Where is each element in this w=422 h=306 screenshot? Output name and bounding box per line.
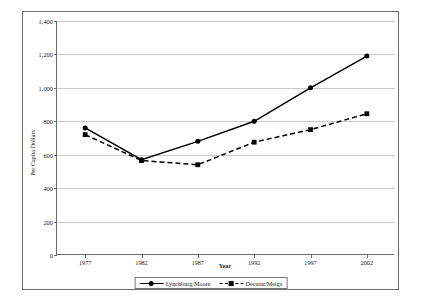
- legend-label-0: Lynchburg/Moore: [166, 280, 211, 287]
- y-tick-label: 800: [43, 118, 53, 125]
- x-tick-mark: [85, 255, 86, 258]
- legend-swatch-icon-0: [140, 279, 164, 287]
- y-tick-label: 1,000: [39, 84, 53, 91]
- data-point-marker-1: [364, 111, 369, 116]
- y-tick-label: 600: [43, 151, 53, 158]
- data-point-marker-0: [195, 139, 200, 144]
- y-tick-label: 400: [43, 185, 53, 192]
- y-tick-mark: [54, 255, 57, 256]
- legend-swatch-icon-1: [220, 279, 244, 287]
- legend-item-series-0: Lynchburg/Moore: [140, 279, 211, 287]
- series-line-0: [85, 56, 367, 160]
- x-axis-title: Year: [56, 262, 394, 269]
- chart-legend: Lynchburg/Moore Decatur/Meigs: [135, 277, 288, 289]
- legend-label-1: Decatur/Meigs: [246, 280, 283, 287]
- data-point-marker-0: [83, 125, 88, 130]
- x-tick-mark: [311, 255, 312, 258]
- y-tick-label: 200: [43, 218, 53, 225]
- data-point-marker-0: [308, 85, 313, 90]
- data-point-marker-1: [308, 127, 313, 132]
- x-tick-mark: [254, 255, 255, 258]
- plot-area: 02004006008001,0001,2001,400 19771982198…: [56, 21, 394, 255]
- y-tick-label: 1,400: [39, 18, 53, 25]
- y-tick-label: 1,200: [39, 51, 53, 58]
- y-tick-label: 0: [50, 252, 53, 259]
- data-point-marker-1: [252, 140, 257, 145]
- series-layer: [57, 21, 395, 255]
- data-point-marker-0: [252, 119, 257, 124]
- data-point-marker-1: [83, 132, 88, 137]
- chart-figure: Per Capita Dollars 02004006008001,0001,2…: [0, 0, 422, 306]
- data-point-marker-1: [195, 162, 200, 167]
- data-point-marker-1: [139, 158, 144, 163]
- data-point-marker-0: [364, 54, 369, 59]
- x-tick-mark: [142, 255, 143, 258]
- y-axis-title: Per Capita Dollars: [29, 130, 36, 176]
- x-tick-mark: [367, 255, 368, 258]
- legend-item-series-1: Decatur/Meigs: [220, 279, 283, 287]
- x-tick-mark: [198, 255, 199, 258]
- series-line-1: [85, 114, 367, 165]
